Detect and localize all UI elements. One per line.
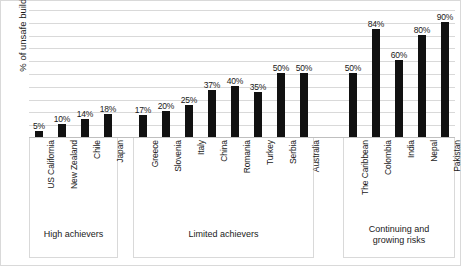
plot-area: 5%10%14%18%17%20%25%37%40%35%50%50%50%84… [29,10,455,138]
gridline [29,10,455,11]
bar [441,22,449,137]
bar [372,29,380,137]
category-label: Slovenia [173,140,183,226]
gridline [29,100,455,101]
category-label: Australia [311,140,321,226]
category-label: New Zealand [69,140,79,226]
category-label: Italy [196,140,206,226]
bar-value-label: 84% [363,19,389,29]
bar [395,60,403,137]
bar-value-label: 25% [176,95,202,105]
gridline [29,87,455,88]
bar [254,92,262,137]
bar-value-label: 35% [245,82,271,92]
category-label: Serbia [288,140,298,226]
bar-value-label: 50% [340,63,366,73]
bar-value-label: 90% [432,12,458,22]
bar-value-label: 60% [386,50,412,60]
bar [104,114,112,137]
category-label: Greece [150,140,160,226]
category-label: Turkey [265,140,275,226]
category-label: Nepal [429,140,439,226]
bar-value-label: 50% [291,63,317,73]
category-label: Romania [242,140,252,226]
category-label: Colombia [383,140,393,226]
group-title: Continuing andgrowing risks [343,224,455,246]
category-label: US California [46,140,56,226]
gridline [29,125,455,126]
group-title: High achievers [29,229,118,240]
bar-value-label: 80% [409,25,435,35]
category-axis: High achieversLimited achieversContinuin… [29,138,455,258]
group-title: Limited achievers [133,229,314,240]
category-label: The Caribbean [360,140,370,226]
category-label: Japan [115,140,125,226]
gridline [29,36,455,37]
gridline [29,23,455,24]
bar [231,86,239,137]
category-label: Pakistan [452,140,462,226]
category-label: Chile [92,140,102,226]
bar [139,115,147,137]
bar [162,111,170,137]
bar [58,124,66,137]
bar [349,73,357,137]
bar-chart: % of unsafe buildings 5%10%14%18%17%20%2… [0,0,461,266]
bar [81,119,89,137]
category-label: China [219,140,229,226]
bar-value-label: 18% [95,104,121,114]
bar [185,105,193,137]
bar [277,73,285,137]
category-label: India [406,140,416,226]
bar [208,90,216,137]
bar [418,35,426,137]
gridline [29,61,455,62]
y-axis-title: % of unsafe buildings [17,0,28,92]
bar [300,73,308,137]
